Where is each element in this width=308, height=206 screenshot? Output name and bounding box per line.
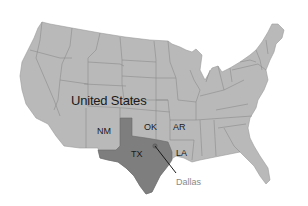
state-label-ok: OK [144,123,157,132]
state-label-nm: NM [97,127,111,136]
us-map [0,0,308,206]
state-label-la: LA [176,149,187,158]
state-label-ar: AR [173,123,186,132]
state-label-tx: TX [131,150,143,159]
city-label-dallas: Dallas [176,178,201,187]
country-label-united-states: United States [71,94,146,107]
